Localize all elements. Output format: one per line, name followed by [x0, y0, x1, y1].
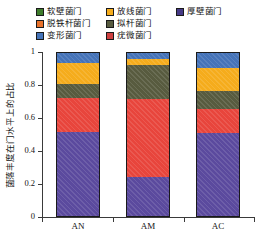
legend-label-5: 变形菌门	[47, 30, 82, 41]
legend-item-2[interactable]: 厚壁菌门	[176, 6, 250, 17]
x-tick-label-ac: AC	[196, 221, 240, 231]
bar-segment-an-0[interactable]	[57, 132, 99, 216]
bar-segment-ac-3[interactable]	[197, 68, 239, 91]
bar-group-an[interactable]: AN	[56, 52, 100, 217]
bar-segment-ac-1[interactable]	[197, 109, 239, 134]
y-tick-2: 0.4	[38, 151, 42, 152]
bar-segment-an-2[interactable]	[57, 84, 99, 97]
legend-item-0[interactable]: 软壁菌门	[36, 6, 104, 17]
bar-segment-am-1[interactable]	[127, 99, 169, 178]
stacked-bar-chart-figure: 软壁菌门 放线菌门 厚壁菌门 脱铁杆菌门 拟杆菌门 变形菌门 疣微菌门	[0, 0, 267, 250]
bar-segment-an-3[interactable]	[57, 63, 99, 84]
legend-swatch-icon-5	[36, 32, 44, 40]
y-axis-label-text: 菌落丰度在门水平上的占比	[3, 82, 15, 189]
y-tick-label-4: 0.8	[24, 79, 35, 89]
bar-group-ac[interactable]: AC	[196, 52, 240, 217]
stacked-bar-am[interactable]	[126, 52, 170, 217]
x-tick-minor-0	[42, 218, 43, 222]
x-tick-label-an: AN	[56, 221, 100, 231]
bar-segment-an-1[interactable]	[57, 98, 99, 133]
plot-area: 00.20.40.60.81 ANAMAC	[42, 52, 255, 218]
y-tick-label-1: 0.2	[24, 178, 35, 188]
legend-swatch-icon-3	[36, 20, 44, 28]
bar-group-am[interactable]: AM	[126, 52, 170, 217]
legend-item-1[interactable]: 放线菌门	[106, 6, 174, 17]
legend-label-1: 放线菌门	[117, 6, 152, 17]
legend-item-4[interactable]: 拟杆菌门	[106, 18, 174, 29]
x-tick-minor-2	[184, 218, 185, 222]
bar-segment-ac-0[interactable]	[197, 133, 239, 216]
y-tick-label-2: 0.4	[24, 145, 35, 155]
x-axis-line	[42, 217, 255, 218]
y-tick-4: 0.8	[38, 85, 42, 86]
y-tick-label-3: 0.6	[24, 112, 35, 122]
bar-segment-ac-2[interactable]	[197, 91, 239, 108]
legend-swatch-icon-4	[106, 20, 114, 28]
y-tick-label-0: 0	[31, 211, 35, 221]
stacked-bar-ac[interactable]	[196, 52, 240, 217]
legend-swatch-icon-6	[106, 32, 114, 40]
legend-item-6[interactable]: 疣微菌门	[106, 30, 174, 41]
y-tick-1: 0.2	[38, 184, 42, 185]
stacked-bar-an[interactable]	[56, 52, 100, 217]
bar-segment-am-4[interactable]	[127, 52, 169, 59]
legend-label-6: 疣微菌门	[117, 30, 152, 41]
x-tick-minor-3	[254, 218, 255, 222]
x-tick-label-am: AM	[126, 221, 170, 231]
y-axis-label: 菌落丰度在门水平上的占比	[2, 52, 16, 218]
y-tick-3: 0.6	[38, 118, 42, 119]
bar-segment-am-3[interactable]	[127, 59, 169, 64]
bar-segment-an-4[interactable]	[57, 52, 99, 63]
legend-item-5[interactable]: 变形菌门	[36, 30, 104, 41]
legend-swatch-icon-1	[106, 8, 114, 16]
y-tick-5: 1	[38, 52, 42, 53]
bar-segment-am-2[interactable]	[127, 65, 169, 99]
y-tick-label-5: 1	[31, 46, 35, 56]
legend-label-2: 厚壁菌门	[187, 6, 222, 17]
chart-legend: 软壁菌门 放线菌门 厚壁菌门 脱铁杆菌门 拟杆菌门 变形菌门 疣微菌门	[36, 6, 264, 41]
legend-swatch-icon-2	[176, 8, 184, 16]
legend-swatch-icon-0	[36, 8, 44, 16]
legend-item-3[interactable]: 脱铁杆菌门	[36, 18, 104, 29]
bar-segment-am-0[interactable]	[127, 177, 169, 216]
legend-label-0: 软壁菌门	[47, 6, 82, 17]
y-axis-line	[42, 52, 43, 218]
legend-label-3: 脱铁杆菌门	[47, 18, 91, 29]
bar-segment-ac-4[interactable]	[197, 52, 239, 68]
x-tick-minor-1	[113, 218, 114, 222]
legend-label-4: 拟杆菌门	[117, 18, 152, 29]
